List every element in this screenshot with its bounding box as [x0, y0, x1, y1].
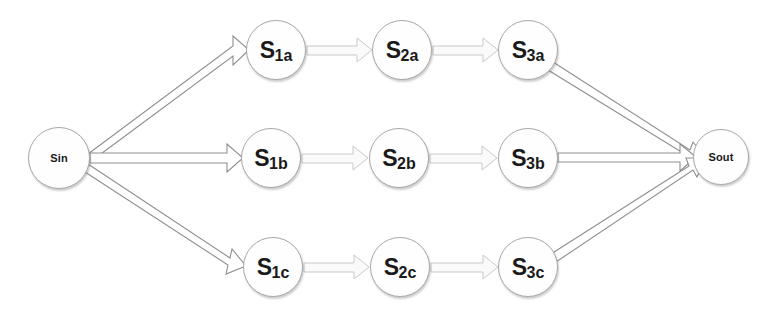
node-sout-label: Sout — [708, 152, 733, 163]
node-s1a-subscript: 1a — [275, 47, 293, 64]
edge-sin-to-s1c — [85, 164, 246, 274]
node-s3b-subscript: 3b — [526, 155, 545, 172]
node-s1a[interactable]: S1a — [246, 20, 306, 80]
node-s1b-prefix: S — [254, 145, 269, 171]
node-sout[interactable]: Sout — [693, 129, 749, 185]
edge-s1a-to-s2a — [307, 38, 372, 62]
node-s1c-prefix: S — [257, 254, 272, 280]
node-s2b[interactable]: S2b — [369, 128, 429, 188]
node-s1a-label: S1a — [260, 39, 293, 62]
node-s2a[interactable]: S2a — [372, 20, 432, 80]
edge-s2b-to-s3b — [430, 146, 497, 170]
node-s3c-prefix: S — [512, 254, 527, 280]
node-s3a-label: S3a — [512, 39, 545, 62]
node-s2c-label: S2c — [384, 256, 417, 279]
node-s3c-subscript: 3c — [527, 264, 545, 281]
edge-sin-to-s1b — [90, 144, 243, 172]
node-s3c[interactable]: S3c — [498, 237, 558, 297]
node-s2b-label: S2b — [382, 147, 416, 170]
edge-s2a-to-s3a — [433, 38, 498, 62]
edge-s1c-to-s2c — [304, 255, 369, 279]
node-s3b-prefix: S — [511, 145, 526, 171]
diagram-canvas: Sin Sout S1a S2a S3a S1b S2b S3b S1c S2c… — [0, 0, 773, 318]
edge-s2c-to-s3c — [431, 255, 498, 279]
edge-s1b-to-s2b — [302, 146, 368, 170]
node-s2b-prefix: S — [382, 145, 397, 171]
node-s2a-prefix: S — [386, 37, 401, 63]
node-s3a[interactable]: S3a — [498, 20, 558, 80]
node-sin-label: Sin — [50, 153, 68, 164]
node-s2b-subscript: 2b — [397, 155, 416, 172]
node-s3b-label: S3b — [511, 147, 545, 170]
node-s2a-label: S2a — [386, 39, 419, 62]
node-s1b-label: S1b — [254, 147, 288, 170]
node-s1b[interactable]: S1b — [241, 128, 301, 188]
node-s1c[interactable]: S1c — [243, 237, 303, 297]
node-s3a-prefix: S — [512, 37, 527, 63]
node-s3a-subscript: 3a — [527, 47, 545, 64]
node-s1b-subscript: 1b — [269, 155, 288, 172]
node-s2c-subscript: 2c — [399, 264, 417, 281]
node-s2c[interactable]: S2c — [370, 237, 430, 297]
edge-s3c-to-sout — [551, 158, 706, 262]
node-s2c-prefix: S — [384, 254, 399, 280]
node-s2a-subscript: 2a — [401, 47, 419, 64]
node-s1a-prefix: S — [260, 37, 275, 63]
node-s1c-label: S1c — [257, 256, 290, 279]
node-s3c-label: S3c — [512, 256, 545, 279]
node-s3b[interactable]: S3b — [498, 128, 558, 188]
edge-sin-to-s1a — [88, 36, 249, 162]
node-s1c-subscript: 1c — [272, 264, 290, 281]
node-sin[interactable]: Sin — [28, 127, 90, 189]
